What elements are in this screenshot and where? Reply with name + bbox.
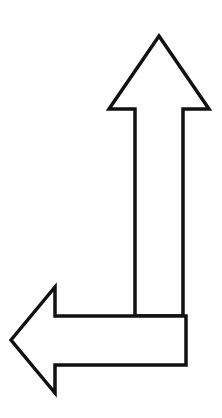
- arrow-diagram: [0, 0, 222, 418]
- up-arrow-icon: [109, 36, 209, 316]
